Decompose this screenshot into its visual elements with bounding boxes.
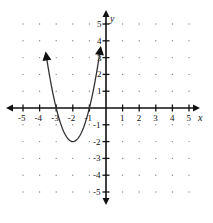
grid-dot [155,91,156,92]
grid-dot [72,23,73,24]
grid-dot [139,158,140,159]
grid-dot [56,23,57,24]
y-axis-top-arrow-icon [103,10,110,17]
grid-dot [56,141,57,142]
grid-dot [172,158,173,159]
grid-dot [188,23,189,24]
x-tick-label: 1 [120,113,125,123]
grid-dot [155,74,156,75]
grid-dot [72,124,73,125]
y-tick-label: -3 [93,153,101,163]
y-tick-label: 2 [97,69,102,79]
grid-dot [72,40,73,41]
grid-dot [172,175,173,176]
coordinate-graph: -5-4-3-2-11234554321-1-2-3-4-5 x y [0,0,213,223]
grid-dot [22,91,23,92]
grid-dot [155,40,156,41]
grid-dot [139,141,140,142]
grid-dot [188,175,189,176]
grid-dot [22,124,23,125]
x-tick-label: -5 [18,113,26,123]
curve-left-arrow-icon [43,51,52,61]
grid-dot [172,40,173,41]
grid-dot [172,141,173,142]
grid-dot [56,158,57,159]
grid-dot [89,40,90,41]
grid-dot [188,158,189,159]
grid-dot [172,57,173,58]
grid-dot [39,158,40,159]
grid-dot [188,191,189,192]
grid-dot [39,91,40,92]
grid-dot [122,57,123,58]
grid-dot [89,158,90,159]
x-tick-label: 3 [153,113,158,123]
grid-dot [22,23,23,24]
grid-dot [122,175,123,176]
grid-dot [122,74,123,75]
grid-dot [139,191,140,192]
grid-dot [72,175,73,176]
grid-dot [39,175,40,176]
grid-dot [188,91,189,92]
grid-dot [56,74,57,75]
grid-dot [72,57,73,58]
grid-dot [89,74,90,75]
grid-dot [155,175,156,176]
grid-dot [155,57,156,58]
grid-dot [22,158,23,159]
grid-dot [122,158,123,159]
grid-dot [122,191,123,192]
grid-dot [22,57,23,58]
grid-dot [89,141,90,142]
grid-dot [122,141,123,142]
grid-dot [188,141,189,142]
grid-dot [39,141,40,142]
grid-dot [172,124,173,125]
grid-dot [39,74,40,75]
grid-dot [22,191,23,192]
grid-dot [139,74,140,75]
grid-dot [172,91,173,92]
grid-dot [89,191,90,192]
grid-dot [139,23,140,24]
grid-dot [89,91,90,92]
grid-dot [122,23,123,24]
grid-dot [188,124,189,125]
y-tick-label: -2 [93,137,101,147]
grid-dot [39,124,40,125]
grid-dot [155,158,156,159]
grid-dot [39,191,40,192]
grid-dot [172,191,173,192]
y-axis-bottom-arrow-icon [103,198,110,205]
grid-dot [56,124,57,125]
grid-dot [89,57,90,58]
grid-dot [72,191,73,192]
grid-dot [139,91,140,92]
grid-dot [155,141,156,142]
x-tick-label: 2 [137,113,142,123]
x-tick-label: 4 [170,113,175,123]
grid-dot [172,23,173,24]
grid-dot [39,57,40,58]
x-tick-label: -4 [35,113,43,123]
y-tick-label: -1 [93,120,101,130]
grid-dot [155,191,156,192]
grid-dot [22,141,23,142]
x-tick-label: 5 [187,113,192,123]
grid-dot [72,91,73,92]
grid-dot [122,91,123,92]
grid-dot [56,40,57,41]
x-axis-right-arrow-icon [193,105,200,112]
grid-dot [139,175,140,176]
grid-dot [89,124,90,125]
grid-dot [188,74,189,75]
grid-dot [56,91,57,92]
x-tick-label: -2 [68,113,76,123]
curve-right-arrow-icon [95,46,104,56]
grid-dot [122,40,123,41]
grid-dot [72,74,73,75]
x-axis-label: x [197,112,203,123]
grid-dot [56,57,57,58]
y-tick-label: 1 [97,86,102,96]
